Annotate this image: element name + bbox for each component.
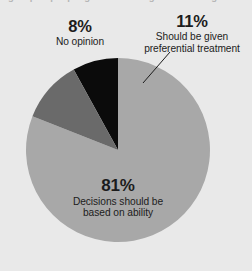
slice-desc-ability-line2: based on ability — [50, 207, 186, 218]
slice-pct-preferential: 11% — [136, 12, 248, 30]
slice-desc-preferential-line2: preferential treatment — [136, 43, 248, 54]
slice-pct-no-opinion: 8% — [38, 17, 122, 35]
slice-label-preferential: 11% Should be given preferential treatme… — [136, 12, 248, 54]
slice-desc-preferential-line1: Should be given — [136, 31, 248, 42]
chart-canvas: a group of people given advantage when h… — [0, 0, 252, 271]
slice-label-ability: 81% Decisions should be based on ability — [50, 176, 186, 219]
slice-desc-no-opinion-line1: No opinion — [38, 36, 122, 47]
slice-pct-ability: 81% — [50, 176, 186, 195]
slice-label-no-opinion: 8% No opinion — [38, 17, 122, 48]
slice-desc-ability-line1: Decisions should be — [50, 196, 186, 207]
